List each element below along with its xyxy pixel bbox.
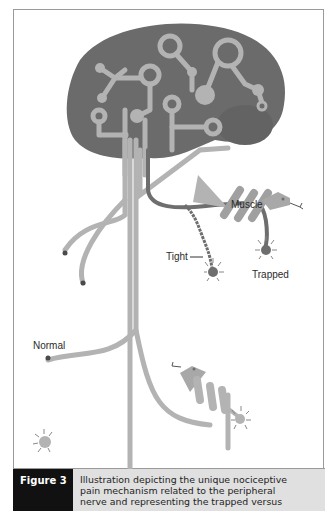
caption-line: nerve and representing the trapped versu… (80, 496, 325, 507)
label-trapped: Trapped (252, 269, 289, 280)
nociceptive-pain-illustration: Muscle Tight Trapped Normal (0, 0, 335, 470)
muscle-icon-lower (172, 362, 240, 448)
label-muscle: Muscle (231, 199, 263, 210)
muscle-icon-upper (193, 175, 303, 218)
figure-caption: Figure 3 Illustration depicting the uniq… (13, 469, 325, 511)
figure-number: Figure 3 (13, 469, 73, 511)
label-tight: Tight (166, 251, 188, 262)
label-normal: Normal (33, 340, 65, 351)
caption-text: Illustration depicting the unique nocice… (73, 469, 325, 511)
pain-burst-icon (33, 236, 277, 452)
caption-line: Illustration depicting the unique nocice… (80, 474, 325, 485)
caption-line: pain mechanism related to the peripheral (80, 485, 325, 496)
